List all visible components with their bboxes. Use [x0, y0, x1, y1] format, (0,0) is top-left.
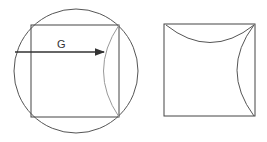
- right-figure: [164, 24, 255, 116]
- outer-square: [164, 24, 255, 116]
- top-arc: [166, 25, 254, 43]
- left-figure: G: [14, 9, 138, 133]
- inner-arc: [104, 25, 120, 117]
- right-arc: [237, 25, 254, 116]
- diagram-canvas: G: [0, 0, 267, 142]
- label-g: G: [57, 38, 66, 50]
- inscribed-square: [31, 25, 119, 117]
